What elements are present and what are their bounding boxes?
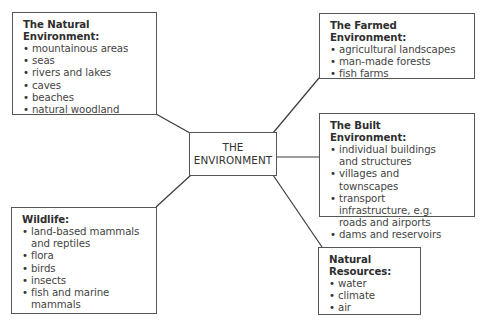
natural-resources-title: Natural Resources: (329, 254, 412, 278)
natural-environment-title: The Natural Environment: (23, 19, 148, 43)
list-item: man-made forests (330, 56, 466, 68)
list-item: birds (22, 263, 142, 275)
list-item: dams and reservoirs (330, 229, 454, 241)
list-item: mountainous areas (23, 43, 148, 55)
list-item: insects (22, 275, 142, 287)
connector-farmed (273, 78, 319, 133)
built-environment-box: The Built Environment: individual buildi… (319, 113, 475, 217)
wildlife-title: Wildlife: (22, 214, 142, 226)
list-item: rivers and lakes (23, 67, 148, 79)
center-node: THE ENVIRONMENT (189, 132, 277, 176)
list-item: fish and marine mammals (22, 287, 142, 311)
farmed-environment-title: The Farmed Environment: (330, 20, 466, 44)
farmed-environment-box: The Farmed Environment: agricultural lan… (319, 13, 475, 79)
list-item: seas (23, 55, 148, 67)
natural-resources-box: Natural Resources: water climate air (318, 247, 421, 315)
center-line2: ENVIRONMENT (194, 154, 272, 167)
connector-resources (273, 175, 322, 247)
natural-environment-box: The Natural Environment: mountainous are… (12, 12, 157, 115)
list-item: beaches (23, 92, 148, 104)
list-item: water (329, 278, 412, 290)
list-item: transport infrastructure, e.g. roads and… (330, 193, 454, 230)
list-item: agricultural landscapes (330, 44, 466, 56)
list-item: climate (329, 290, 412, 302)
list-item: individual buildings and structures (330, 144, 454, 168)
wildlife-box: Wildlife: land-based mammals and reptile… (11, 207, 157, 314)
list-item: natural woodland (23, 104, 148, 116)
connector-wildlife (156, 175, 191, 207)
list-item: fish farms (330, 68, 466, 80)
list-item: air (329, 302, 412, 314)
list-item: villages and townscapes (330, 168, 454, 192)
connector-natural (156, 114, 190, 133)
list-item: land-based mammals and reptiles (22, 226, 142, 250)
list-item: caves (23, 80, 148, 92)
center-line1: THE (222, 141, 243, 154)
list-item: flora (22, 250, 142, 262)
built-environment-title: The Built Environment: (330, 120, 454, 144)
